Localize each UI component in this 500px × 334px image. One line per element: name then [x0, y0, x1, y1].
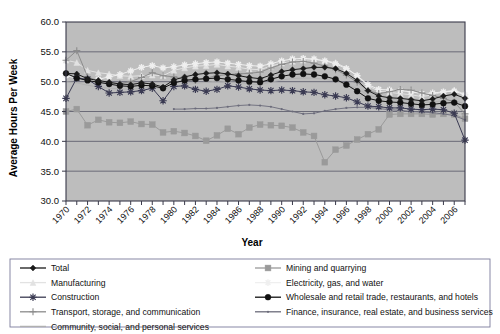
legend-label: Community, social, and personal services — [51, 322, 209, 332]
legend-label: Finance, insurance, real estate, and bus… — [286, 307, 493, 317]
chart-container: 30.035.040.045.050.055.060.0 19701972197… — [0, 0, 500, 334]
legend-label: Mining and quarrying — [286, 263, 366, 273]
line-chart: 30.035.040.045.050.055.060.0 19701972197… — [0, 0, 500, 334]
legend-label: Total — [51, 263, 69, 273]
legend-label: Construction — [51, 292, 99, 302]
y-tick-label: 45.0 — [41, 106, 60, 117]
y-tick-label: 55.0 — [41, 46, 60, 57]
y-tick-label: 40.0 — [41, 136, 60, 147]
legend-item[interactable]: Wholesale and retail trade, restaurants,… — [255, 292, 478, 302]
y-tick-label: 50.0 — [41, 76, 60, 87]
legend-label: Transport, storage, and communication — [51, 307, 200, 317]
legend-label: Electricity, gas, and water — [286, 278, 383, 288]
y-tick-label: 35.0 — [41, 166, 60, 177]
y-tick-label: 30.0 — [41, 195, 60, 206]
x-axis-title: Year — [241, 237, 262, 248]
y-tick-label: 60.0 — [41, 16, 60, 27]
y-axis-title: Average Hours Per Week — [8, 58, 19, 177]
legend-label: Wholesale and retail trade, restaurants,… — [286, 292, 478, 302]
legend-item[interactable]: Finance, insurance, real estate, and bus… — [255, 307, 493, 317]
legend-label: Manufacturing — [51, 278, 106, 288]
